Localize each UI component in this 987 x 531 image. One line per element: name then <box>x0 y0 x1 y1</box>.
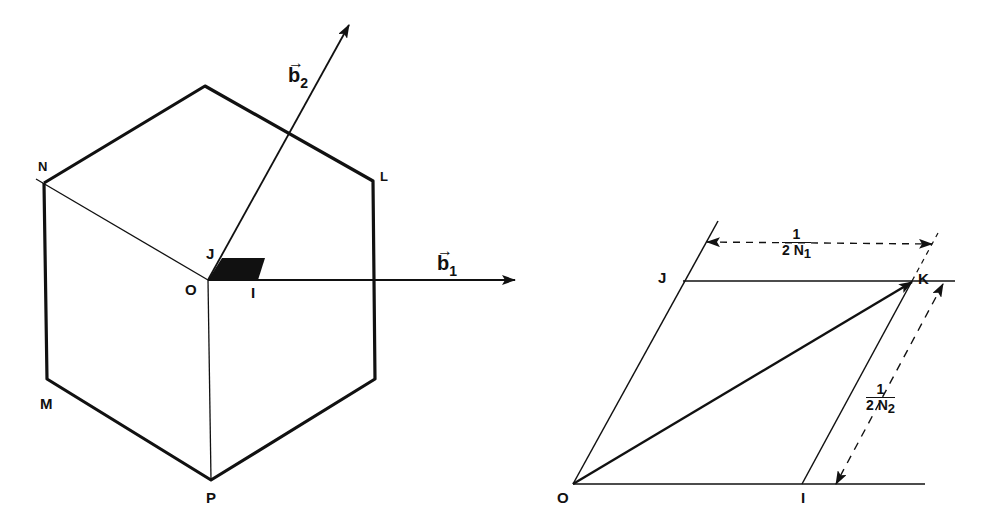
label-P: P <box>206 490 216 505</box>
diagonal-O-K-arrow <box>573 282 912 484</box>
fraction-1-over-2N1: 1 2 N1 <box>782 227 811 257</box>
vector-arrow-icon: → <box>437 242 453 260</box>
edge-N-O <box>36 179 208 280</box>
label-J: J <box>206 246 214 261</box>
label-O: O <box>185 282 197 297</box>
shaded-unit-cell <box>208 258 265 280</box>
line-O-J-extended <box>573 221 718 484</box>
dimension-arrow-1-over-2N1 <box>707 242 932 244</box>
label-K: K <box>918 271 929 286</box>
line-I-K <box>802 281 912 484</box>
edge-O-P <box>208 280 211 480</box>
label-O-right: O <box>557 490 569 505</box>
fraction-1-over-2N2: 1 2 N2 <box>866 382 895 412</box>
label-I-right: I <box>801 490 805 505</box>
vector-label-b1: →b1 <box>437 252 457 275</box>
label-J-right: J <box>658 270 666 285</box>
label-L: L <box>380 170 388 183</box>
diagram-canvas <box>0 0 987 531</box>
label-I: I <box>251 285 255 300</box>
label-M: M <box>40 396 53 411</box>
vector-b2-arrow <box>208 25 349 280</box>
vector-arrow-icon: → <box>288 54 304 72</box>
label-N: N <box>38 160 47 173</box>
vector-label-b2: →b2 <box>288 64 308 87</box>
